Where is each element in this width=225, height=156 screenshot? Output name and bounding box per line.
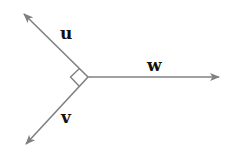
vector-v-arrow — [26, 77, 88, 144]
vector-w-label: w — [146, 55, 162, 75]
right-angle-marker — [71, 69, 80, 87]
vector-u-label: u — [60, 23, 72, 43]
vector-diagram: u w v — [0, 0, 225, 156]
vector-v-label: v — [60, 107, 72, 127]
vector-u-arrow — [24, 14, 88, 77]
